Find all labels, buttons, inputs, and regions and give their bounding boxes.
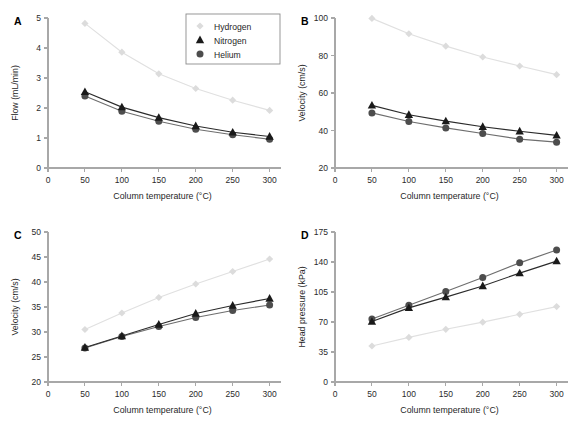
data-point-nitrogen xyxy=(81,87,89,95)
data-point-helium xyxy=(442,124,449,131)
data-point-hydrogen xyxy=(368,342,375,349)
y-tick-label: 25 xyxy=(32,352,42,362)
data-point-nitrogen xyxy=(368,101,376,109)
data-point-hydrogen xyxy=(368,15,375,22)
x-tick-label: 150 xyxy=(439,389,453,399)
y-tick-label: 175 xyxy=(314,227,328,237)
legend: HydrogenNitrogenHelium xyxy=(186,14,280,64)
x-tick-label: 150 xyxy=(152,389,166,399)
chart-svg-b: B20406080100050100150200250300Column tem… xyxy=(287,0,574,214)
data-point-hydrogen xyxy=(553,71,560,78)
x-axis-title: Column temperature (°C) xyxy=(400,191,498,201)
data-point-nitrogen xyxy=(265,294,273,302)
x-tick-label: 200 xyxy=(189,389,203,399)
data-point-hydrogen xyxy=(442,326,449,333)
panel-letter: C xyxy=(14,229,22,241)
data-point-hydrogen xyxy=(479,319,486,326)
series-nitrogen xyxy=(368,101,561,139)
panel-letter: B xyxy=(301,15,309,27)
data-point-hydrogen xyxy=(516,311,523,318)
x-tick-label: 150 xyxy=(439,175,453,185)
data-point-helium xyxy=(266,302,273,309)
y-tick-label: 105 xyxy=(314,287,328,297)
data-point-hydrogen xyxy=(479,53,486,60)
y-axis-title: Velocity (cm/s) xyxy=(297,64,307,121)
y-tick-label: 40 xyxy=(32,277,42,287)
y-tick-label: 100 xyxy=(314,13,328,23)
chart-panel-c: C20253035404550050100150200250300Column … xyxy=(0,214,287,428)
y-tick-label: 80 xyxy=(319,51,329,61)
y-tick-label: 35 xyxy=(319,347,329,357)
x-tick-label: 50 xyxy=(367,175,377,185)
series-line-nitrogen xyxy=(85,92,270,137)
legend-label-hydrogen: Hydrogen xyxy=(214,22,251,32)
y-tick-label: 140 xyxy=(314,257,328,267)
x-tick-label: 0 xyxy=(333,175,338,185)
y-tick-label: 3 xyxy=(36,73,41,83)
series-line-hydrogen xyxy=(372,307,557,346)
y-tick-label: 70 xyxy=(319,317,329,327)
y-axis-title: Head pressure (kPa) xyxy=(297,266,307,347)
x-tick-label: 200 xyxy=(476,175,490,185)
x-tick-label: 300 xyxy=(550,389,564,399)
y-tick-label: 4 xyxy=(36,43,41,53)
data-point-hydrogen xyxy=(405,334,412,341)
data-point-hydrogen xyxy=(405,30,412,37)
x-tick-label: 200 xyxy=(189,175,203,185)
data-point-hydrogen xyxy=(266,255,273,262)
series-line-helium xyxy=(372,250,557,319)
y-tick-label: 50 xyxy=(32,227,42,237)
data-point-helium xyxy=(516,136,523,143)
x-tick-label: 250 xyxy=(226,389,240,399)
data-point-helium xyxy=(368,109,375,116)
data-point-hydrogen xyxy=(155,294,162,301)
x-tick-label: 300 xyxy=(263,175,277,185)
y-tick-label: 5 xyxy=(36,13,41,23)
x-tick-label: 250 xyxy=(513,389,527,399)
x-tick-label: 300 xyxy=(263,389,277,399)
data-point-hydrogen xyxy=(155,70,162,77)
x-axis-title: Column temperature (°C) xyxy=(113,405,211,415)
panel-letter: D xyxy=(301,229,309,241)
x-tick-label: 200 xyxy=(476,389,490,399)
data-point-hydrogen xyxy=(192,85,199,92)
series-helium xyxy=(368,247,560,323)
data-point-helium xyxy=(516,259,523,266)
y-tick-label: 30 xyxy=(32,327,42,337)
legend-label-helium: Helium xyxy=(214,50,241,60)
data-point-helium xyxy=(479,130,486,137)
series-line-helium xyxy=(85,305,270,348)
data-point-hydrogen xyxy=(81,326,88,333)
figure-container: A012345050100150200250300Column temperat… xyxy=(0,0,574,428)
series-hydrogen xyxy=(368,15,560,78)
data-point-hydrogen xyxy=(553,303,560,310)
y-tick-label: 1 xyxy=(36,133,41,143)
series-nitrogen xyxy=(368,257,561,325)
y-tick-label: 35 xyxy=(32,302,42,312)
data-point-helium xyxy=(553,139,560,146)
data-point-hydrogen xyxy=(229,268,236,275)
x-axis-title: Column temperature (°C) xyxy=(400,405,498,415)
data-point-nitrogen xyxy=(552,257,560,265)
legend-label-nitrogen: Nitrogen xyxy=(214,36,247,46)
chart-svg-d: D03570105140175050100150200250300Column … xyxy=(287,214,574,428)
y-tick-label: 40 xyxy=(319,126,329,136)
x-tick-label: 250 xyxy=(226,175,240,185)
y-tick-label: 2 xyxy=(36,103,41,113)
data-point-hydrogen xyxy=(229,97,236,104)
data-point-helium xyxy=(405,118,412,125)
x-tick-label: 50 xyxy=(80,389,90,399)
panel-letter: A xyxy=(14,15,22,27)
series-line-helium xyxy=(372,113,557,142)
data-point-hydrogen xyxy=(266,107,273,114)
chart-panel-b: B20406080100050100150200250300Column tem… xyxy=(287,0,574,214)
chart-svg-c: C20253035404550050100150200250300Column … xyxy=(0,214,287,428)
data-point-helium xyxy=(479,274,486,281)
chart-svg-a: A012345050100150200250300Column temperat… xyxy=(0,0,287,214)
x-tick-label: 250 xyxy=(513,175,527,185)
data-point-hydrogen xyxy=(118,309,125,316)
y-axis-title: Flow (mL/min) xyxy=(10,65,20,121)
data-point-hydrogen xyxy=(442,43,449,50)
x-tick-label: 150 xyxy=(152,175,166,185)
y-tick-label: 60 xyxy=(319,88,329,98)
